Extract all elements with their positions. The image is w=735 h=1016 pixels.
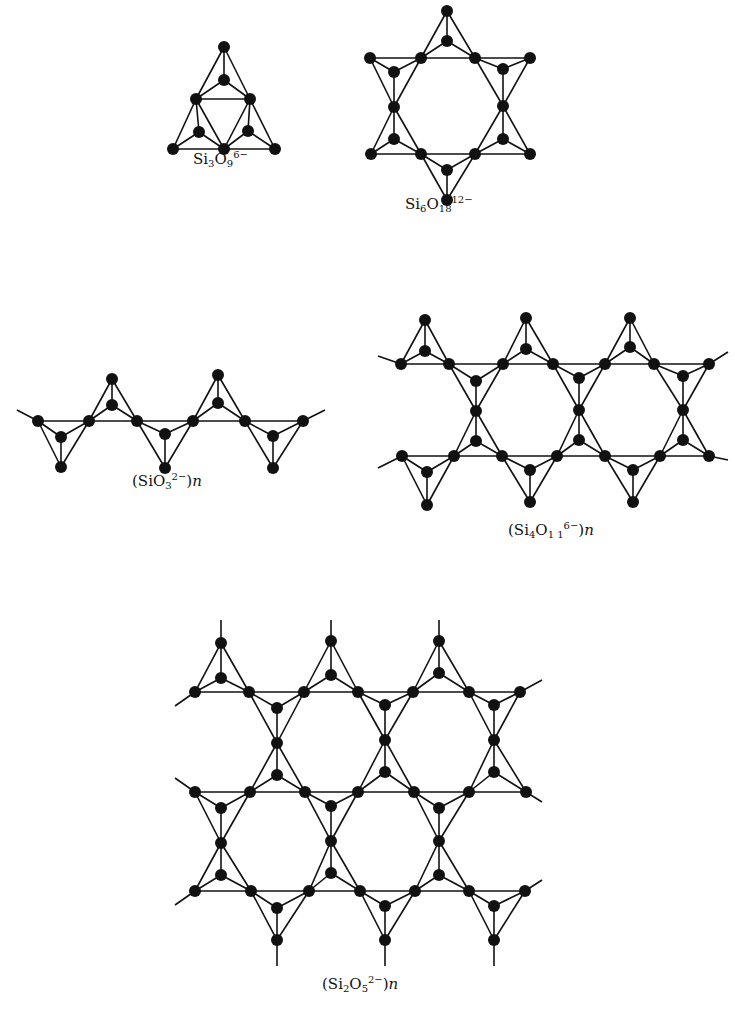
atom-dot-icon (189, 786, 201, 798)
atom-dot-icon (648, 358, 660, 370)
atom-dot-icon (421, 466, 433, 478)
atom-dot-icon (245, 885, 257, 897)
atom-dot-icon (379, 699, 391, 711)
atom-dot-icon (497, 358, 509, 370)
atom-dot-icon (497, 63, 509, 75)
formula-label-si4o11-double-chain: (Si4O1 16−)n (508, 520, 594, 540)
atom-dot-icon (433, 802, 445, 814)
atom-dot-icon (421, 499, 433, 511)
atom-dot-icon (520, 343, 532, 355)
atom-dot-icon (419, 345, 431, 357)
bond-line (683, 410, 709, 456)
atom-dot-icon (212, 397, 224, 409)
bond-line (224, 99, 250, 149)
atom-dot-icon (433, 635, 445, 647)
atom-dot-icon (298, 686, 310, 698)
atom-dot-icon (55, 431, 67, 443)
bond-line (654, 364, 683, 410)
atom-dot-icon (470, 375, 482, 387)
atom-dot-icon (267, 430, 279, 442)
atom-dot-icon (243, 686, 255, 698)
bond-line (630, 318, 654, 364)
bond-line (413, 641, 439, 692)
structure-si4o11-double-chain (378, 312, 728, 511)
atom-dot-icon (269, 143, 281, 155)
atom-dot-icon (654, 450, 666, 462)
atom-dot-icon (352, 686, 364, 698)
atom-dot-icon (379, 766, 391, 778)
atom-dot-icon (520, 312, 532, 324)
atom-dot-icon (703, 358, 715, 370)
atom-dot-icon (244, 786, 256, 798)
atom-dot-icon (470, 435, 482, 447)
atom-dot-icon (189, 686, 201, 698)
atom-dot-icon (242, 125, 254, 137)
atom-dot-icon (106, 399, 118, 411)
atom-dot-icon (463, 885, 475, 897)
bond-line (250, 743, 277, 792)
bond-line (277, 743, 305, 792)
atom-dot-icon (419, 314, 431, 326)
atom-dot-icon (443, 358, 455, 370)
atom-dot-icon (325, 635, 337, 647)
atom-dot-icon (441, 35, 453, 47)
atom-dot-icon (239, 415, 251, 427)
atom-dot-icon (448, 450, 460, 462)
atom-dot-icon (325, 835, 337, 847)
formula-label-si6o18: Si6O1812− (405, 194, 473, 214)
bond-line (439, 641, 469, 692)
bond-line (196, 47, 224, 99)
atom-dot-icon (388, 66, 400, 78)
atom-dot-icon (32, 415, 44, 427)
atom-dot-icon (441, 5, 453, 17)
bond-line (38, 421, 61, 467)
atom-dot-icon (599, 450, 611, 462)
bond-line (557, 410, 579, 456)
atom-dot-icon (365, 148, 377, 160)
atom-dot-icon (212, 369, 224, 381)
atom-dot-icon (218, 41, 230, 53)
atom-dot-icon (520, 786, 532, 798)
atom-dot-icon (193, 126, 205, 138)
atom-dot-icon (524, 148, 536, 160)
atom-dot-icon (364, 52, 376, 64)
atom-dot-icon (433, 667, 445, 679)
atom-dot-icon (624, 341, 636, 353)
structure-si3o9 (167, 41, 281, 155)
atom-dot-icon (433, 835, 445, 847)
atom-dot-icon (407, 686, 419, 698)
atom-dot-icon (496, 450, 508, 462)
atom-dot-icon (573, 404, 585, 416)
structure-si6o18 (364, 5, 536, 206)
atom-dot-icon (627, 496, 639, 508)
bond-line (196, 99, 224, 149)
formula-label-si3o9: Si3O96− (193, 149, 248, 169)
formula-label-sio3-chain: (SiO32−)n (132, 471, 202, 491)
atom-dot-icon (573, 372, 585, 384)
atom-dot-icon (271, 737, 283, 749)
atom-dot-icon (519, 885, 531, 897)
bond-line (421, 11, 447, 58)
bond-line (277, 891, 309, 940)
bond-line (331, 841, 360, 891)
atom-dot-icon (379, 900, 391, 912)
atom-dot-icon (215, 637, 227, 649)
atom-dot-icon (488, 766, 500, 778)
atom-dot-icon (488, 934, 500, 946)
bond-line (605, 318, 630, 364)
atom-dot-icon (627, 464, 639, 476)
atom-dot-icon (379, 934, 391, 946)
bond-line (358, 740, 385, 792)
bond-line (683, 364, 709, 410)
bond-line (89, 379, 112, 421)
atom-dot-icon (497, 100, 509, 112)
atom-dot-icon (463, 786, 475, 798)
bond-line (476, 364, 503, 411)
bond-line (494, 740, 526, 792)
atom-dot-icon (395, 358, 407, 370)
bond-line (660, 410, 683, 456)
atom-dot-icon (325, 669, 337, 681)
atom-dot-icon (497, 133, 509, 145)
atom-dot-icon (624, 312, 636, 324)
atom-dot-icon (267, 462, 279, 474)
